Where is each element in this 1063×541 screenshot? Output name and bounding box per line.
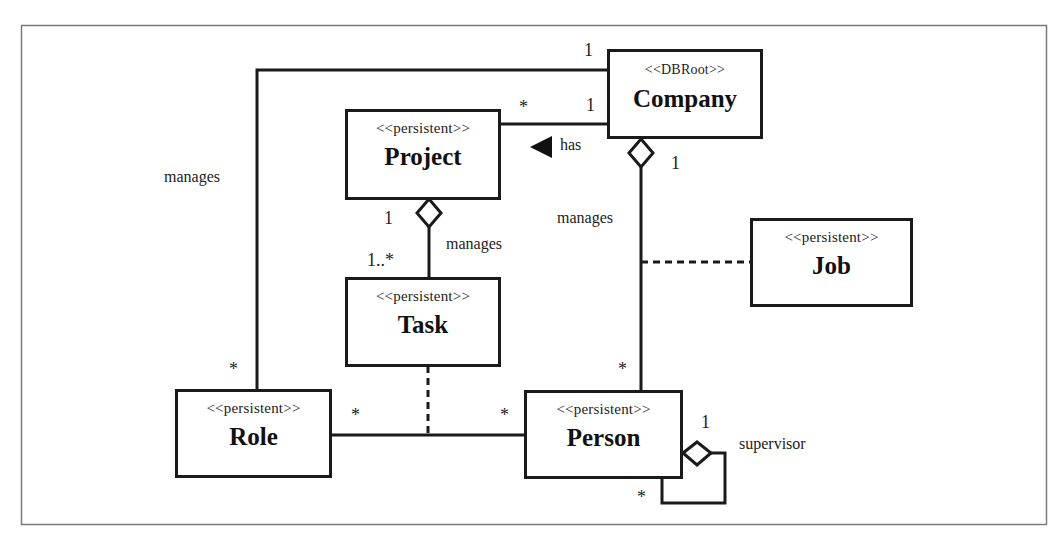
project-stereotype: <<persistent>> — [376, 120, 470, 137]
mult-company-person-person-end: * — [618, 359, 627, 380]
class-task[interactable]: <<persistent>> Task — [345, 277, 501, 367]
mult-company-project-company-end: 1 — [586, 95, 595, 116]
company-aggregation-diamond-icon — [629, 139, 653, 167]
job-stereotype: <<persistent>> — [784, 229, 878, 246]
has-direction-arrow-icon — [530, 136, 552, 158]
label-person-supervisor: supervisor — [739, 435, 806, 453]
role-name: Role — [229, 423, 278, 451]
task-name: Task — [398, 311, 449, 339]
mult-person-self-supervisor-end: 1 — [701, 412, 710, 433]
company-name: Company — [633, 85, 737, 113]
job-name: Job — [812, 252, 851, 280]
mult-company-role-role-end: * — [229, 359, 238, 380]
project-name: Project — [384, 143, 461, 171]
class-project[interactable]: <<persistent>> Project — [345, 109, 501, 200]
mult-company-role-company-end: 1 — [584, 40, 593, 61]
label-project-task-manages: manages — [446, 235, 502, 253]
label-company-role-manages: manages — [164, 168, 220, 186]
class-person[interactable]: <<persistent>> Person — [524, 390, 683, 479]
class-job[interactable]: <<persistent>> Job — [750, 218, 913, 307]
mult-role-person-role-end: * — [351, 405, 360, 426]
person-stereotype: <<persistent>> — [556, 401, 650, 418]
company-stereotype: <<DBRoot>> — [645, 62, 725, 78]
mult-company-project-project-end: * — [519, 97, 528, 118]
role-stereotype: <<persistent>> — [206, 400, 300, 417]
person-name: Person — [567, 424, 641, 452]
label-company-person-manages: manages — [557, 209, 613, 227]
mult-person-self-subordinate-end: * — [637, 487, 646, 508]
mult-role-person-person-end: * — [500, 405, 509, 426]
label-company-project-has: has — [560, 136, 581, 154]
mult-company-person-company-end: 1 — [671, 153, 680, 174]
mult-project-task-project-end: 1 — [384, 208, 393, 229]
mult-project-task-task-end: 1..* — [367, 250, 394, 271]
project-aggregation-diamond-icon — [417, 199, 441, 227]
person-aggregation-diamond-icon — [683, 442, 711, 465]
class-company[interactable]: <<DBRoot>> Company — [607, 49, 763, 139]
task-stereotype: <<persistent>> — [376, 288, 470, 305]
class-role[interactable]: <<persistent>> Role — [175, 389, 332, 478]
